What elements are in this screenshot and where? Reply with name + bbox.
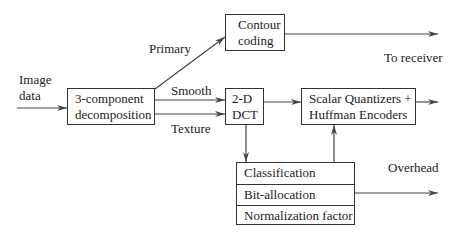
side-info-block: Classification Bit-allocation Normalizat… [236, 162, 355, 225]
contour-coding-block: Contour coding [225, 14, 285, 51]
decomposition-block: 3-component decomposition [67, 88, 155, 125]
quantizers-encoders-block: Scalar Quantizers + Huffman Encoders [301, 88, 416, 125]
normalization-factor-row: Normalization factor [237, 205, 354, 226]
dct-block: 2-D DCT [225, 88, 264, 125]
overhead-label: Overhead [388, 160, 439, 176]
input-label: Image data [19, 72, 51, 104]
smooth-label: Smooth [171, 83, 211, 99]
classification-row: Classification [237, 163, 354, 184]
primary-label: Primary [149, 41, 191, 57]
bit-allocation-row: Bit-allocation [237, 184, 354, 205]
texture-label: Texture [171, 121, 211, 137]
to-receiver-label: To receiver [384, 50, 443, 66]
